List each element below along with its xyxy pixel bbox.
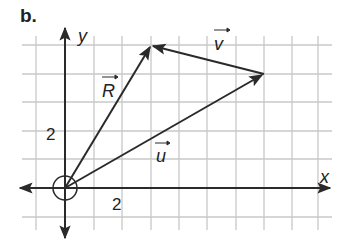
- vectors: [65, 46, 264, 188]
- x-tick-label: 2: [112, 195, 121, 214]
- y-tick-label: 2: [46, 125, 55, 144]
- axes: [20, 28, 330, 238]
- vector-R: [65, 47, 150, 188]
- vector-diagram: b. y x 2 2 R v u: [0, 0, 348, 252]
- vector-v-label: v: [214, 34, 224, 54]
- vector-u-label: u: [156, 146, 166, 166]
- part-label: b.: [20, 5, 37, 26]
- y-axis-label: y: [76, 26, 88, 46]
- x-axis-label: x: [319, 167, 330, 187]
- vector-R-label: R: [102, 81, 115, 101]
- vector-v: [153, 46, 264, 74]
- grid: [22, 36, 332, 230]
